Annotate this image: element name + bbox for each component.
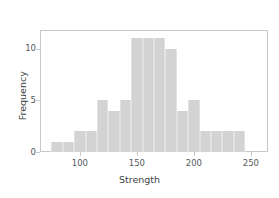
histogram-bar — [108, 111, 119, 152]
x-tick-mark — [194, 152, 195, 156]
x-tick-mark — [80, 152, 81, 156]
y-tick-mark — [36, 49, 40, 50]
x-tick-label: 150 — [129, 159, 145, 168]
y-axis-title: Frequency — [18, 51, 28, 141]
histogram-bar — [120, 100, 131, 152]
y-tick-mark — [36, 100, 40, 101]
x-tick-label: 200 — [186, 159, 202, 168]
x-tick-mark — [137, 152, 138, 156]
x-tick-label: 100 — [72, 159, 88, 168]
x-tick-label: 250 — [243, 159, 259, 168]
histogram-figure: 0510 100150200250 Frequency Strength — [0, 0, 279, 198]
histogram-bar — [165, 49, 176, 152]
histogram-bar — [86, 131, 97, 152]
histogram-bar — [234, 131, 245, 152]
y-tick-label: 5 — [31, 96, 36, 105]
histogram-bar — [74, 131, 85, 152]
histogram-bar — [200, 131, 211, 152]
histogram-bar — [177, 111, 188, 152]
histogram-bar — [143, 38, 154, 152]
y-tick-label: 0 — [31, 148, 36, 157]
x-axis-title: Strength — [0, 175, 279, 185]
histogram-bar — [154, 38, 165, 152]
histogram-bar — [131, 38, 142, 152]
histogram-bars — [40, 30, 268, 152]
histogram-bar — [63, 142, 74, 152]
histogram-bar — [188, 100, 199, 152]
x-tick-mark — [251, 152, 252, 156]
histogram-bar — [222, 131, 233, 152]
histogram-bar — [97, 100, 108, 152]
y-tick-mark — [36, 152, 40, 153]
histogram-bar — [211, 131, 222, 152]
histogram-bar — [51, 142, 62, 152]
